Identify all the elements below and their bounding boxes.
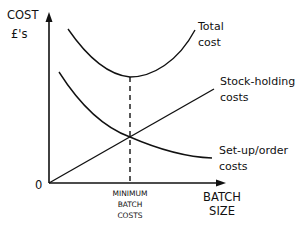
total-cost-curve xyxy=(68,29,195,77)
x-axis-arrow-icon xyxy=(216,180,226,187)
x-axis-label-2: SIZE xyxy=(200,204,244,218)
minimum-label-2: BATCH xyxy=(98,199,162,210)
total-cost-label-1: Total xyxy=(198,20,224,33)
stock-holding-label-1: Stock-holding xyxy=(220,75,295,88)
x-axis-label: BATCH SIZE xyxy=(200,190,244,218)
setup-order-label-2: costs xyxy=(219,160,248,173)
setup-order-curve xyxy=(59,72,212,158)
x-axis-label-1: BATCH xyxy=(200,190,244,204)
setup-order-label-1: Set-up/order xyxy=(219,144,288,157)
y-axis-unit: £'s xyxy=(11,27,27,41)
y-axis-label: COST xyxy=(7,8,38,22)
minimum-label-1: MINIMUM xyxy=(98,188,162,199)
origin-label: 0 xyxy=(35,178,42,192)
minimum-label: MINIMUM BATCH COSTS xyxy=(98,188,162,221)
minimum-label-3: COSTS xyxy=(98,210,162,221)
y-axis-arrow-icon xyxy=(46,12,53,22)
stock-holding-label-2: costs xyxy=(220,91,249,104)
total-cost-label-2: cost xyxy=(198,36,221,49)
stock-holding-line xyxy=(49,89,214,183)
